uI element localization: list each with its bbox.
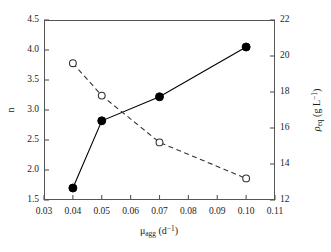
y-axis-right-unit-close: ) — [311, 89, 322, 92]
y-axis-left-tick-label: 4.5 — [27, 15, 39, 25]
data-point-rho-eq-3 — [243, 175, 250, 182]
y-axis-left-tick-label: 3.0 — [27, 105, 39, 115]
y-axis-right-subscript: eq — [315, 119, 324, 126]
y-axis-right-tick-label: 22 — [280, 15, 290, 25]
y-axis-right-tick-label: 20 — [280, 51, 290, 61]
chart-figure: 1.52.02.53.03.54.04.5 121416182022 0.030… — [0, 0, 331, 252]
data-point-rho-eq-1 — [98, 92, 105, 99]
y-axis-left-tick-label: 4.0 — [27, 45, 39, 55]
series-markers — [69, 43, 250, 192]
y-axis-right-unit-exponent: −1 — [310, 92, 319, 100]
y-axis-right-tick-label: 12 — [280, 195, 290, 205]
x-axis-unit-close: ) — [175, 225, 178, 236]
y-axis-right-title: ρeq (g L−1) — [310, 89, 324, 131]
y-axis-left-tick-label: 2.5 — [27, 135, 39, 145]
x-axis-tick-label: 0.03 — [36, 207, 53, 217]
x-axis-tick-label: 0.09 — [209, 207, 226, 217]
y-axis-right-unit-open: (g L — [311, 100, 322, 119]
y-axis-left-tick-label: 1.5 — [27, 195, 39, 205]
y-axis-left-tick-label: 2.0 — [27, 165, 39, 175]
x-axis-unit-exponent: −1 — [167, 224, 175, 233]
y-axis-left-title: n — [5, 108, 16, 113]
x-axis-subscript: agg — [145, 229, 156, 238]
x-axis-tick-label: 0.11 — [267, 207, 283, 217]
x-axis-title: μagg (d−1) — [140, 224, 178, 238]
data-point-n-2 — [156, 93, 164, 101]
data-point-n-1 — [98, 117, 106, 125]
x-axis-tick-label: 0.10 — [238, 207, 255, 217]
y-axis-left-tick-label: 3.5 — [27, 75, 39, 85]
y-axis-right-tick-label: 18 — [280, 87, 290, 97]
x-axis-tick-label: 0.06 — [122, 207, 139, 217]
y-axis-left-ticks — [44, 20, 49, 200]
x-axis-unit-open: (d — [156, 225, 167, 236]
data-point-rho-eq-2 — [156, 139, 163, 146]
x-axis-ticks — [44, 195, 275, 200]
y-axis-right-ticks — [270, 20, 275, 200]
data-point-rho-eq-0 — [69, 60, 76, 67]
data-point-n-0 — [69, 184, 77, 192]
x-axis-tick-label: 0.05 — [93, 207, 110, 217]
y-axis-right-symbol: ρ — [311, 126, 322, 131]
y-axis-right-tick-label: 16 — [280, 123, 290, 133]
x-axis-tick-label: 0.08 — [180, 207, 197, 217]
data-point-n-3 — [242, 43, 250, 51]
y-axis-right-tick-label: 14 — [280, 159, 290, 169]
x-axis-tick-label: 0.04 — [65, 207, 82, 217]
x-axis-tick-label: 0.07 — [151, 207, 168, 217]
